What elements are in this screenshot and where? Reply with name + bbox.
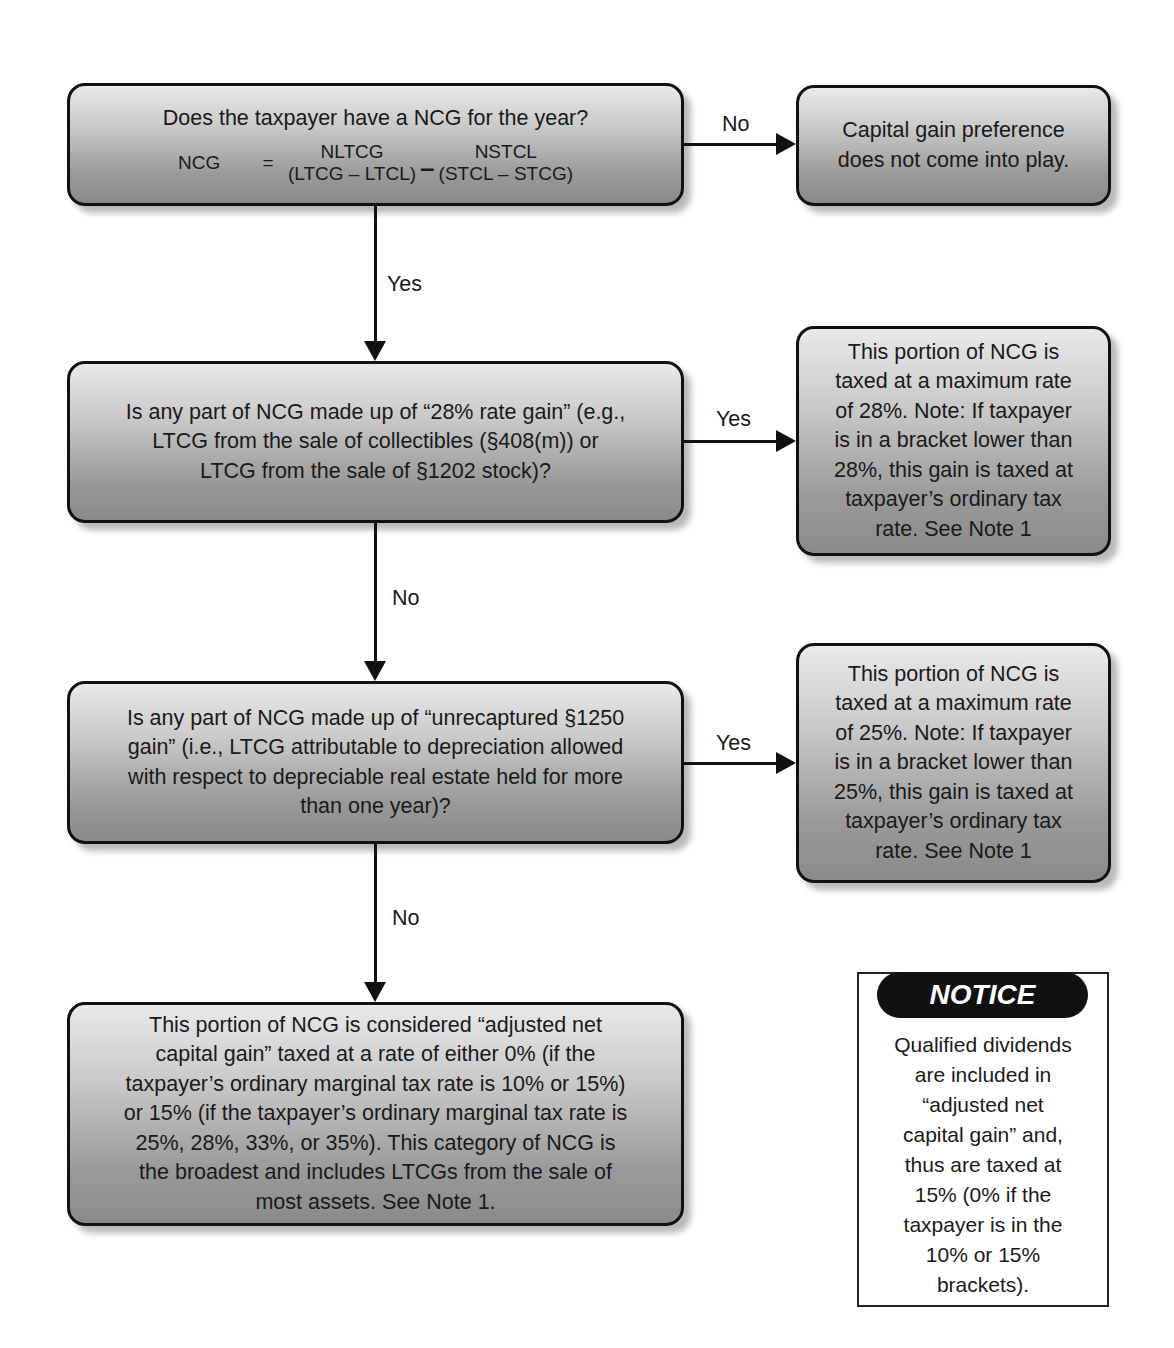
result-text-line: of 28%. Note: If taxpayer — [835, 397, 1072, 427]
connector-q3-r4 — [374, 844, 377, 984]
result-text-line: capital gain” taxed at a rate of either … — [156, 1040, 596, 1070]
decision-text-line: than one year)? — [300, 792, 451, 822]
result-text-line: taxpayer’s ordinary tax — [845, 807, 1062, 837]
notice-text-line: capital gain” and, — [857, 1120, 1109, 1150]
result-text-line: 25%, 28%, 33%, or 35%). This category of… — [136, 1129, 616, 1159]
result-text-line: taxpayer’s ordinary marginal tax rate is… — [126, 1070, 626, 1100]
connector-q1-q2 — [374, 206, 377, 342]
term-definition: (STCL – STCG) — [439, 163, 573, 185]
result-box-adjusted-net-capital-gain: This portion of NCG is considered “adjus… — [67, 1002, 684, 1226]
result-text-line: This portion of NCG is considered “adjus… — [149, 1011, 602, 1041]
result-text-line: Capital gain preference — [842, 116, 1064, 146]
arrowhead-down-icon — [364, 341, 386, 361]
result-text-line: taxed at a maximum rate — [835, 689, 1072, 719]
notice-text-line: Qualified dividends — [857, 1030, 1109, 1060]
term-label: NSTCL — [475, 141, 537, 163]
decision-text-line: Is any part of NCG made up of “28% rate … — [126, 398, 626, 428]
result-text-line: taxed at a maximum rate — [835, 367, 1072, 397]
decision-box-has-ncg: Does the taxpayer have a NCG for the yea… — [67, 83, 684, 206]
formula-term-nstcl: NSTCL (STCL – STCG) — [439, 141, 573, 185]
term-definition: (LTCG – LTCL) — [288, 163, 416, 185]
formula-lhs: NCG — [178, 152, 248, 174]
decision-text-line: Is any part of NCG made up of “unrecaptu… — [127, 704, 624, 734]
result-text-line: of 25%. Note: If taxpayer — [835, 719, 1072, 749]
result-box-25-percent: This portion of NCG is taxed at a maximu… — [796, 643, 1111, 883]
result-text-line: This portion of NCG is — [848, 660, 1059, 690]
result-text-line: most assets. See Note 1. — [255, 1188, 495, 1218]
result-text-line: is in a bracket lower than — [835, 426, 1073, 456]
notice-text-line: taxpayer is in the — [857, 1210, 1109, 1240]
result-box-28-percent: This portion of NCG is taxed at a maximu… — [796, 326, 1111, 556]
arrowhead-right-icon — [776, 752, 796, 774]
connector-q2-q3 — [374, 523, 377, 663]
decision-box-unrecaptured-1250: Is any part of NCG made up of “unrecaptu… — [67, 681, 684, 844]
result-text-line: or 15% (if the taxpayer’s ordinary margi… — [124, 1099, 628, 1129]
edge-label-yes: Yes — [387, 272, 422, 297]
result-text-line: taxpayer’s ordinary tax — [845, 485, 1062, 515]
result-text-line: This portion of NCG is — [848, 338, 1059, 368]
notice-text-line: 15% (0% if the — [857, 1180, 1109, 1210]
notice-text-line: are included in — [857, 1060, 1109, 1090]
edge-label-no: No — [722, 112, 749, 137]
edge-label-no: No — [392, 906, 419, 931]
result-text-line: the broadest and includes LTCGs from the… — [139, 1158, 612, 1188]
decision-text-line: LTCG from the sale of collectibles (§408… — [152, 427, 598, 457]
arrowhead-down-icon — [364, 661, 386, 681]
decision-text-line: LTCG from the sale of §1202 stock)? — [200, 457, 551, 487]
arrowhead-down-icon — [364, 982, 386, 1002]
formula-term-nltcg: NLTCG (LTCG – LTCL) — [288, 141, 416, 185]
decision-box-28-rate-gain: Is any part of NCG made up of “28% rate … — [67, 361, 684, 523]
formula-equals: = — [248, 152, 288, 174]
ncg-formula: NCG = NLTCG (LTCG – LTCL) – NSTCL (STCL … — [178, 141, 573, 185]
arrowhead-right-icon — [776, 133, 796, 155]
edge-label-yes: Yes — [716, 407, 751, 432]
notice-text-line: “adjusted net — [857, 1090, 1109, 1120]
decision-text-line: gain” (i.e., LTCG attributable to deprec… — [128, 733, 624, 763]
notice-text-line: brackets). — [857, 1270, 1109, 1300]
edge-label-yes: Yes — [716, 731, 751, 756]
result-text-line: is in a bracket lower than — [835, 748, 1073, 778]
term-label: NLTCG — [321, 141, 384, 163]
connector-q2-r2 — [684, 440, 777, 443]
result-text-line: 25%, this gain is taxed at — [834, 778, 1073, 808]
arrowhead-right-icon — [776, 430, 796, 452]
connector-q1-r1 — [684, 143, 777, 146]
result-text-line: rate. See Note 1 — [875, 515, 1032, 545]
result-text-line: rate. See Note 1 — [875, 837, 1032, 867]
notice-heading: NOTICE — [877, 972, 1088, 1018]
result-box-no-preference: Capital gain preference does not come in… — [796, 85, 1111, 206]
decision-text-line: with respect to depreciable real estate … — [128, 763, 623, 793]
decision-text: Does the taxpayer have a NCG for the yea… — [163, 104, 588, 134]
formula-minus: – — [420, 157, 434, 179]
connector-q3-r3 — [684, 762, 777, 765]
notice-body: Qualified dividends are included in “adj… — [857, 1030, 1109, 1300]
notice-text-line: 10% or 15% — [857, 1240, 1109, 1270]
edge-label-no: No — [392, 586, 419, 611]
result-text-line: does not come into play. — [838, 146, 1069, 176]
result-text-line: 28%, this gain is taxed at — [834, 456, 1073, 486]
notice-text-line: thus are taxed at — [857, 1150, 1109, 1180]
